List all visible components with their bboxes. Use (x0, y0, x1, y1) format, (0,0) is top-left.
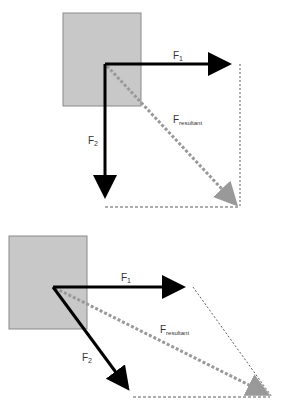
force-2-label: F2 (82, 352, 92, 364)
guide-line-diagonal (193, 287, 272, 397)
force-2-label: F2 (88, 135, 98, 147)
force-2-arrow (53, 287, 126, 386)
resultant-label: Fresultant (173, 114, 202, 126)
diagram-perpendicular: F1 F2 Fresultant (63, 13, 240, 207)
force-1-label: F1 (121, 272, 131, 284)
resultant-arrow (107, 66, 234, 202)
resultant-label: Fresultant (160, 324, 189, 336)
resultant-arrow (55, 288, 265, 393)
force-1-label: F1 (173, 50, 183, 62)
object-box (63, 13, 141, 106)
diagram-angled: F1 F2 Fresultant (9, 236, 272, 397)
force-diagrams: F1 F2 Fresultant F1 F2 Fresultant (0, 0, 284, 409)
